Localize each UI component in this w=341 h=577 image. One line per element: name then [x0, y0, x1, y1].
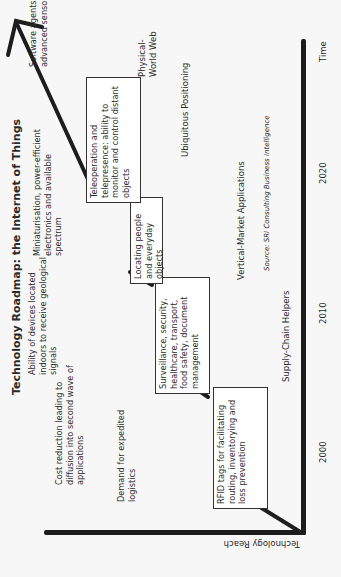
driver-software-agents: Software agents and advanced sensor fusi…: [28, 0, 49, 67]
app-supply-chain: Supply-Chain Helpers: [281, 291, 291, 382]
stage-box-teleoperation: Teleoperation and telepresence: ability …: [86, 77, 141, 203]
driver-indoor-signals: Ability of devices located indoors to re…: [27, 251, 59, 375]
stage-box-rfid: RFID tags for facilitating routing, inve…: [213, 387, 268, 509]
driver-miniaturisation: Miniaturisation, power-efficient electro…: [32, 126, 64, 256]
roadmap-diagram: Technology Roadmap: the Internet of Thin…: [0, 0, 341, 577]
stage-box-vertical-market: Surveillance, security, healthcare, tran…: [155, 277, 210, 394]
driver-logistics: Demand for expedited logistics: [116, 400, 137, 502]
app-physical-world-web: Physical-World Web: [137, 17, 159, 77]
app-vertical-market: Vertical-Market Applications: [236, 161, 246, 280]
app-ubiquitous-positioning: Ubiquitous Positioning: [180, 63, 190, 157]
stage-box-positioning: Locating people and everyday objects: [130, 197, 163, 284]
driver-cost-reduction: Cost reduction leading to diffusion into…: [54, 363, 86, 485]
source-note: Source: SRI Consulting Business Intellig…: [263, 115, 271, 271]
